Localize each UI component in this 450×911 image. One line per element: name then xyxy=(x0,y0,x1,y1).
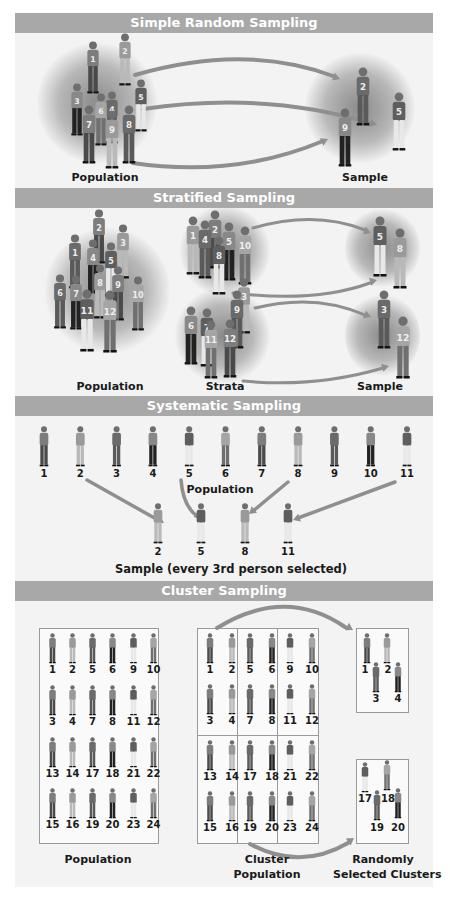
arrow-icon xyxy=(217,607,345,628)
person-figure xyxy=(76,426,85,466)
person-figure xyxy=(221,426,230,466)
person-figure xyxy=(185,426,194,466)
person-figure xyxy=(109,788,116,818)
person-figure xyxy=(287,684,294,714)
person-figure xyxy=(109,737,116,767)
person-figure: 11 xyxy=(80,290,93,352)
person-figure xyxy=(384,760,391,790)
person-number: 21 xyxy=(280,771,300,782)
person-figure xyxy=(49,633,56,663)
person-figure: 2 xyxy=(119,33,130,85)
person-number: 4 xyxy=(222,715,242,726)
systematic-panel: Systematic Sampling 1234567891011 Popula… xyxy=(15,396,433,581)
person-number: 24 xyxy=(302,822,322,833)
person-number: 20 xyxy=(262,822,282,833)
person-number: 3 xyxy=(200,715,220,726)
person-number: 20 xyxy=(103,819,123,830)
arrow-icon xyxy=(233,283,370,296)
person-number: 1 xyxy=(200,664,220,675)
person-figure xyxy=(241,503,250,543)
simple-random-panel: Simple Random Sampling 124356798295 Popu… xyxy=(15,13,433,188)
population-label: Population xyxy=(53,853,143,866)
shirt-number: 11 xyxy=(205,335,217,345)
shirt-number: 8 xyxy=(397,244,403,254)
person-figure xyxy=(257,426,266,466)
person-figure xyxy=(330,426,339,466)
person-number: 21 xyxy=(124,768,144,779)
person-figure: 8 xyxy=(394,229,407,289)
arrow-icon xyxy=(135,59,333,76)
person-figure xyxy=(287,791,294,821)
shirt-number: 5 xyxy=(138,93,143,102)
person-number: 10 xyxy=(302,664,322,675)
person-figure xyxy=(364,633,371,663)
arrow-icon xyxy=(143,103,370,123)
person-number: 11 xyxy=(280,715,300,726)
person-number: 22 xyxy=(144,768,164,779)
shirt-number: 9 xyxy=(109,125,115,135)
person-number: 10 xyxy=(144,664,164,675)
person-number: 5 xyxy=(240,664,260,675)
person-number: 14 xyxy=(222,771,242,782)
simple-figures: 124356798295 xyxy=(15,13,433,188)
shirt-number: 12 xyxy=(397,332,410,343)
person-figure xyxy=(150,685,157,715)
person-number: 15 xyxy=(43,819,63,830)
arrow-icon xyxy=(253,219,365,230)
shirt-number: 4 xyxy=(202,235,208,245)
shirt-number: 5 xyxy=(377,232,383,242)
person-figure xyxy=(229,791,236,821)
person-number: 23 xyxy=(280,822,300,833)
person-number: 5 xyxy=(191,546,211,557)
person-figure xyxy=(130,633,137,663)
person-figure xyxy=(130,737,137,767)
shirt-number: 10 xyxy=(239,241,251,251)
shirt-number: 12 xyxy=(104,306,117,317)
person-number: 2 xyxy=(70,468,90,479)
person-figure xyxy=(89,737,96,767)
arrow-icon xyxy=(133,141,323,167)
population-label: Population xyxy=(65,380,155,393)
person-figure: 3 xyxy=(71,83,82,135)
stratified-figures: 23145109867111221458103967111258312 xyxy=(15,188,433,396)
arrow-icon xyxy=(255,302,365,315)
person-number: 9 xyxy=(124,664,144,675)
person-number: 8 xyxy=(235,546,255,557)
person-figure xyxy=(109,685,116,715)
person-number: 17 xyxy=(240,771,260,782)
person-number: 2 xyxy=(63,664,83,675)
person-figure: 8 xyxy=(123,105,136,163)
shirt-number: 6 xyxy=(57,288,63,298)
person-figure xyxy=(309,740,316,770)
person-number: 4 xyxy=(143,468,163,479)
person-number: 3 xyxy=(366,693,386,704)
shirt-number: 5 xyxy=(226,237,232,247)
strata-label: Strata xyxy=(200,380,250,393)
shirt-number: 9 xyxy=(234,305,240,315)
person-figure xyxy=(89,685,96,715)
person-number: 15 xyxy=(200,822,220,833)
person-number: 1 xyxy=(34,468,54,479)
stratified-panel: Stratified Sampling 23145109867111221458… xyxy=(15,188,433,396)
person-number: 17 xyxy=(83,768,103,779)
person-figure xyxy=(362,762,369,792)
person-number: 3 xyxy=(43,716,63,727)
person-number: 3 xyxy=(107,468,127,479)
person-number: 11 xyxy=(124,716,144,727)
person-figure xyxy=(109,633,116,663)
person-number: 13 xyxy=(43,768,63,779)
person-figure xyxy=(49,737,56,767)
shirt-number: 8 xyxy=(97,278,103,288)
person-figure: 5 xyxy=(135,79,146,131)
sample-label: Sample xyxy=(345,380,415,393)
person-figure xyxy=(294,426,303,466)
person-number: 7 xyxy=(240,715,260,726)
person-figure xyxy=(247,684,254,714)
person-figure xyxy=(89,788,96,818)
sample-label: Sample (every 3rd person selected) xyxy=(115,562,345,576)
person-figure xyxy=(229,684,236,714)
person-figure xyxy=(384,633,391,663)
person-number: 10 xyxy=(361,468,381,479)
shirt-number: 2 xyxy=(212,225,218,235)
person-number: 19 xyxy=(240,822,260,833)
